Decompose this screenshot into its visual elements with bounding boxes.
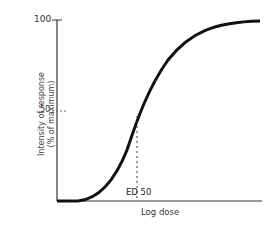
x-axis-label: Log dose xyxy=(141,207,179,217)
ed50-label: ED 50 xyxy=(126,187,151,197)
y-tick-label-100: 100 xyxy=(34,14,51,24)
y-axis-label: Intensity of response (% of maximum) xyxy=(37,49,57,179)
dose-response-curve xyxy=(57,21,260,201)
y-axis-label-line2: (% of maximum) xyxy=(47,49,57,179)
y-axis-label-line1: Intensity of response xyxy=(37,49,47,179)
chart: 100 50 Intensity of response (% of maxim… xyxy=(0,0,272,229)
